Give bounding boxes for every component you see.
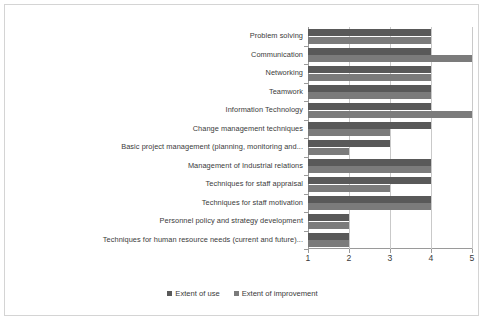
- legend-swatch-icon: [167, 291, 172, 296]
- bar-extent-of-use[interactable]: [308, 85, 431, 92]
- bar-extent-of-use[interactable]: [308, 196, 431, 203]
- bar-extent-of-use[interactable]: [308, 122, 431, 129]
- gridline: [472, 27, 473, 249]
- bar-extent-of-improvement[interactable]: [308, 92, 431, 99]
- bar-extent-of-use[interactable]: [308, 48, 431, 55]
- bar-group: [308, 101, 472, 120]
- legend-item[interactable]: Extent of use: [167, 289, 219, 298]
- legend-label: Extent of use: [175, 289, 219, 298]
- chart-frame: Problem solvingCommunicationNetworkingTe…: [4, 4, 479, 316]
- bar-group: [308, 138, 472, 157]
- value-axis-tick-label: 2: [339, 253, 359, 263]
- category-label: Networking: [266, 68, 303, 77]
- value-axis-tick-label: 5: [462, 253, 482, 263]
- bar-extent-of-use[interactable]: [308, 103, 431, 110]
- value-axis-tick-label: 4: [421, 253, 441, 263]
- bar-extent-of-improvement[interactable]: [308, 55, 472, 62]
- category-label: Communication: [251, 50, 303, 59]
- bar-group: [308, 27, 472, 46]
- category-label: Basic project management (planning, moni…: [121, 142, 303, 151]
- category-label: Techniques for staff appraisal: [206, 179, 304, 188]
- bar-extent-of-improvement[interactable]: [308, 129, 390, 136]
- bar-group: [308, 212, 472, 231]
- bar-group: [308, 175, 472, 194]
- bar-extent-of-use[interactable]: [308, 29, 431, 36]
- value-axis-tick-label: 1: [298, 253, 318, 263]
- category-label: Techniques for staff motivation: [202, 198, 303, 207]
- bar-group: [308, 194, 472, 213]
- bar-group: [308, 231, 472, 250]
- bar-group: [308, 157, 472, 176]
- category-axis-labels: Problem solvingCommunicationNetworkingTe…: [15, 27, 307, 249]
- bar-extent-of-improvement[interactable]: [308, 166, 431, 173]
- chart-plot-wrapper: Problem solvingCommunicationNetworkingTe…: [5, 5, 478, 315]
- bar-extent-of-use[interactable]: [308, 177, 431, 184]
- category-label: Problem solving: [250, 31, 303, 40]
- category-label: Information Technology: [226, 105, 303, 114]
- category-label: Personnel policy and strategy developmen…: [160, 216, 303, 225]
- category-label: Techniques for human resource needs (cur…: [103, 235, 303, 244]
- bar-extent-of-improvement[interactable]: [308, 222, 349, 229]
- bar-group: [308, 83, 472, 102]
- legend-item[interactable]: Extent of improvement: [234, 289, 318, 298]
- category-label: Management of Industrial relations: [188, 161, 303, 170]
- bar-extent-of-improvement[interactable]: [308, 240, 349, 247]
- plot-area: [308, 27, 472, 249]
- bar-extent-of-improvement[interactable]: [308, 148, 349, 155]
- category-label: Change management techniques: [193, 124, 303, 133]
- legend-label: Extent of improvement: [242, 289, 318, 298]
- value-axis-tick-labels: 12345: [308, 253, 478, 267]
- category-label: Teamwork: [269, 87, 303, 96]
- category-tick-mark: [304, 249, 308, 250]
- bar-extent-of-improvement[interactable]: [308, 111, 472, 118]
- bar-extent-of-use[interactable]: [308, 214, 349, 221]
- chart-legend: Extent of useExtent of improvement: [5, 289, 480, 298]
- bar-extent-of-improvement[interactable]: [308, 185, 390, 192]
- bar-extent-of-use[interactable]: [308, 233, 349, 240]
- bar-group: [308, 46, 472, 65]
- bar-extent-of-use[interactable]: [308, 140, 390, 147]
- bar-extent-of-use[interactable]: [308, 66, 431, 73]
- bar-group: [308, 120, 472, 139]
- legend-swatch-icon: [234, 291, 239, 296]
- bar-group: [308, 64, 472, 83]
- bar-extent-of-improvement[interactable]: [308, 37, 431, 44]
- bar-extent-of-improvement[interactable]: [308, 74, 431, 81]
- value-axis-tick-label: 3: [380, 253, 400, 263]
- bar-extent-of-improvement[interactable]: [308, 203, 431, 210]
- bar-extent-of-use[interactable]: [308, 159, 431, 166]
